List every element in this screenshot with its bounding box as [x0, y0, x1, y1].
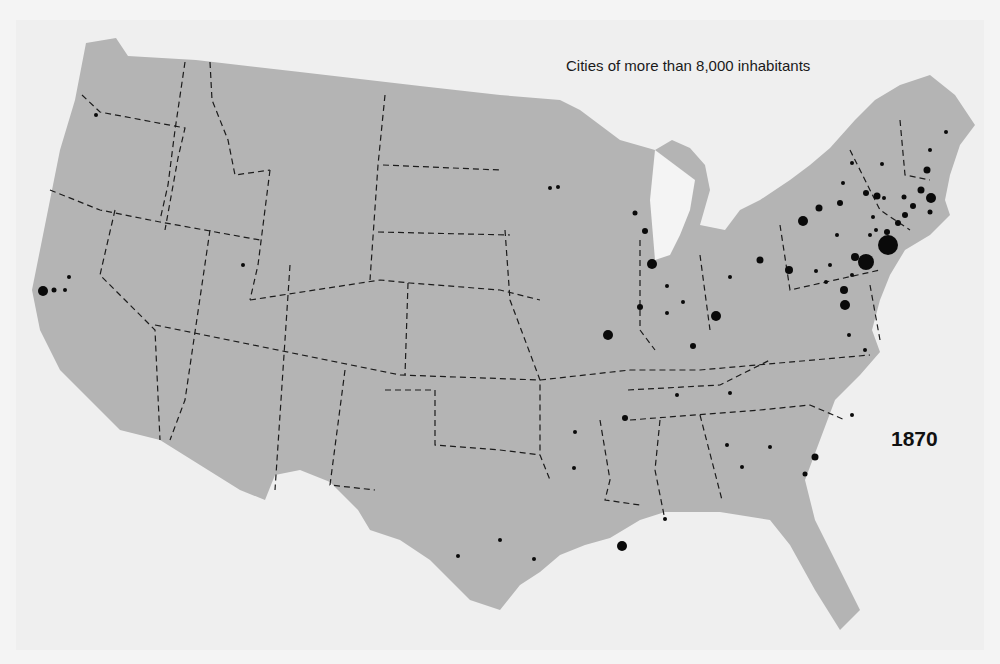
us-map-1870	[0, 0, 1000, 664]
map-title: Cities of more than 8,000 inhabitants	[566, 57, 810, 74]
year-label: 1870	[891, 427, 938, 451]
